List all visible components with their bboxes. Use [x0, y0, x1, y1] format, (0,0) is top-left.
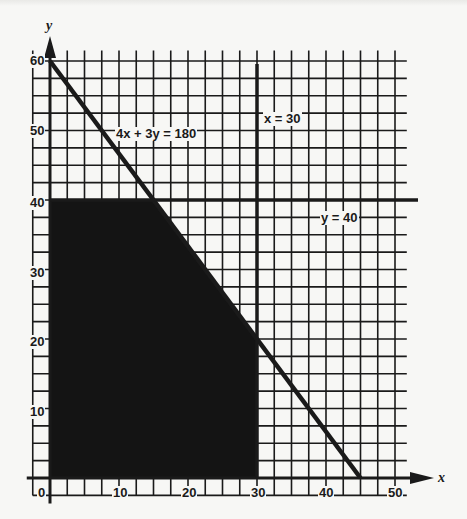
x-tick-50: 50	[387, 486, 403, 500]
x-tick-0: 0	[37, 486, 46, 500]
y-axis-arrow-icon	[44, 36, 56, 58]
x-axis-label: x	[438, 470, 445, 486]
y-tick-40: 40	[29, 196, 45, 210]
chart-figure: y x 60 50 40 30 20 10 0 10 20 30 40 50 4…	[0, 0, 467, 519]
y-axis-label: y	[46, 18, 52, 34]
x-axis-arrow-icon	[410, 472, 434, 484]
y-tick-20: 20	[29, 335, 45, 349]
plot-area	[0, 0, 467, 519]
scan-edge	[0, 0, 467, 6]
y-tick-50: 50	[29, 124, 45, 138]
label-x-30: x = 30	[263, 112, 302, 126]
x-tick-10: 10	[112, 486, 128, 500]
label-4x-3y-180: 4x + 3y = 180	[115, 127, 197, 141]
x-tick-30: 30	[250, 486, 266, 500]
feasible-region	[50, 200, 257, 478]
y-tick-30: 30	[29, 266, 45, 280]
label-y-40: y = 40	[320, 211, 359, 225]
y-tick-10: 10	[29, 405, 45, 419]
x-tick-20: 20	[181, 486, 197, 500]
x-tick-40: 40	[318, 486, 334, 500]
y-tick-60: 60	[29, 54, 45, 68]
